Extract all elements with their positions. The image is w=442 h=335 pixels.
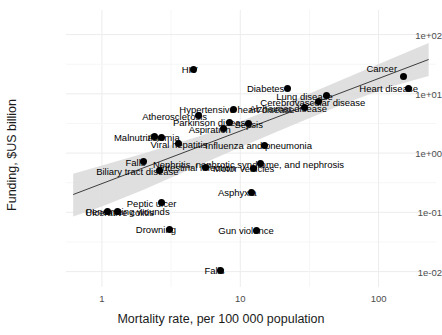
- y-tick-label: 1e+00: [381, 148, 442, 159]
- y-axis-label: Funding, $US billion: [5, 99, 19, 211]
- y-tick-label: 1e-02: [381, 266, 442, 277]
- y-tick-label: 1e-01: [381, 207, 442, 218]
- data-point: [114, 208, 121, 215]
- data-point: [158, 134, 165, 141]
- data-point: [284, 85, 291, 92]
- x-tick-label: 100: [371, 293, 387, 304]
- data-point: [248, 189, 255, 196]
- x-tick-label: 10: [235, 293, 246, 304]
- data-point: [217, 267, 224, 274]
- data-point: [261, 142, 268, 149]
- data-point: [253, 227, 260, 234]
- chart-figure: CancerHeart diseaseHIVDiabetesLung disea…: [0, 0, 442, 335]
- data-point: [190, 66, 197, 73]
- data-point: [400, 73, 407, 80]
- x-axis-label: Mortality rate, per 100 000 population: [0, 312, 442, 326]
- y-tick-label: 1e+01: [381, 88, 442, 99]
- x-tick-label: 1: [99, 293, 104, 304]
- data-point: [202, 164, 209, 171]
- y-tick-label: 1e+02: [381, 29, 442, 40]
